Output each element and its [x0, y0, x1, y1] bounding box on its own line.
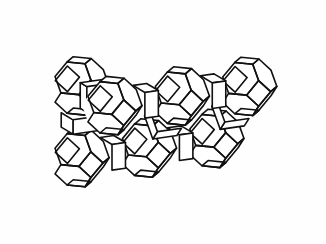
zeolite-framework-diagram — [0, 0, 326, 244]
linker-3-side-fill-1 — [179, 133, 192, 161]
figure-background — [0, 0, 326, 244]
figure-root — [0, 0, 326, 244]
linker-1-side-fill-1 — [212, 81, 225, 109]
linker-2-side-fill-1 — [112, 143, 125, 171]
linker-0-side-fill-1 — [145, 91, 158, 119]
